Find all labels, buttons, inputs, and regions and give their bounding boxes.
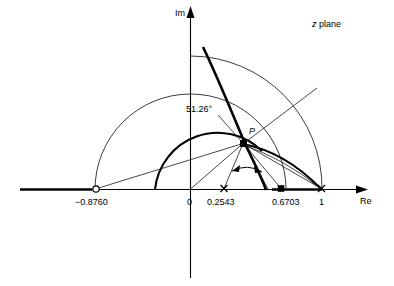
axes-group [20,6,368,278]
plane-label: z plane [312,20,341,29]
pole-marker-cross-0-2543 [221,185,228,192]
tick-label-origin: 0 [187,198,192,207]
angle-arc-group [232,165,262,173]
plane-label-text: plane [317,19,342,29]
ray-origin-to-P [191,144,244,190]
point-marker-square-0-6703 [278,186,284,192]
tick-label-0-6703: 0.6703 [272,198,300,207]
markers-group [93,140,325,192]
point-P-label: P [249,127,255,136]
angle-arc-arrowhead-right [254,166,262,173]
tick-label-neg-0-8760: −0.8760 [75,198,108,207]
tick-label-1: 1 [319,198,324,207]
real-axis-arrowhead [356,186,368,194]
angle-label: 51.26° [186,105,212,114]
z-plane-figure: Im Re z plane 51.26° P −0.8760 0 0.2543 … [0,0,394,286]
tick-label-0-2543: 0.2543 [207,198,235,207]
real-axis-label: Re [360,197,372,206]
ray-zero-to-P [97,144,243,189]
imaginary-axis-arrowhead [187,6,195,18]
plot-canvas [0,0,394,286]
ray-pole-0-2543-to-P [224,144,243,189]
zero-marker-open-circle [93,186,99,192]
point-P-marker [240,140,247,147]
imaginary-axis-label: Im [175,9,185,18]
